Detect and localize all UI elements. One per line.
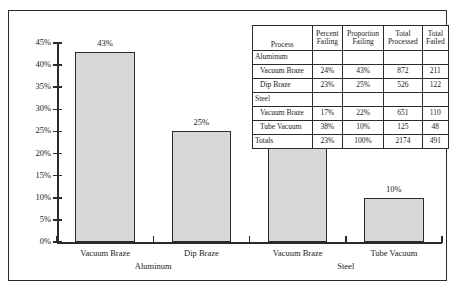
x-axis-category-label: Tube Vacuum bbox=[346, 248, 442, 258]
cell-percent-failing bbox=[312, 93, 342, 107]
y-axis-tick bbox=[53, 197, 62, 199]
table-body: AluminumVacuum Braze24%43%872211Dip Braz… bbox=[253, 51, 449, 149]
bar bbox=[268, 145, 328, 242]
cell-total-processed: 2174 bbox=[384, 135, 423, 149]
y-axis-label: 25% bbox=[11, 126, 51, 135]
x-axis-tick bbox=[56, 236, 58, 243]
cell-percent-failing: 17% bbox=[312, 107, 342, 121]
bar bbox=[364, 198, 424, 242]
y-axis-label: 35% bbox=[11, 82, 51, 91]
cell-total-failed bbox=[422, 93, 448, 107]
bar-value-label: 25% bbox=[153, 118, 249, 127]
cell-percent-failing: 24% bbox=[312, 65, 342, 79]
cell-total-processed bbox=[384, 51, 423, 65]
table-row: Tube Vacuum38%10%12548 bbox=[253, 121, 449, 135]
table-row: Steel bbox=[253, 93, 449, 107]
cell-total-processed: 651 bbox=[384, 107, 423, 121]
x-axis-category-label: Dip Braze bbox=[153, 248, 249, 258]
cell-proportion-failing bbox=[343, 93, 384, 107]
y-axis-label: 15% bbox=[11, 171, 51, 180]
y-axis-tick bbox=[53, 86, 62, 88]
figure-frame: 0%5%10%15%20%25%30%35%40%45%43%Vacuum Br… bbox=[8, 10, 447, 281]
cell-total-processed: 125 bbox=[384, 121, 423, 135]
header-proportion-failing: Proportion Failing bbox=[343, 26, 384, 51]
cell-total-failed bbox=[422, 51, 448, 65]
x-axis-tick bbox=[441, 236, 443, 243]
header-total-processed-line2: Processed bbox=[388, 37, 418, 46]
header-total-failed: Total Failed bbox=[422, 26, 448, 51]
cell-total-processed: 872 bbox=[384, 65, 423, 79]
cell-proportion-failing: 25% bbox=[343, 79, 384, 93]
cell-process: Vacuum Braze bbox=[253, 65, 313, 79]
y-axis-label: 5% bbox=[11, 215, 51, 224]
y-axis-tick bbox=[53, 131, 62, 133]
cell-process: Totals bbox=[253, 135, 313, 149]
table-row: Vacuum Braze17%22%651110 bbox=[253, 107, 449, 121]
y-axis-tick bbox=[53, 153, 62, 155]
header-percent-failing-line2: Failing bbox=[317, 37, 338, 46]
table-header-row: Process Percent Failing Proportion Faili… bbox=[253, 26, 449, 51]
cell-proportion-failing: 43% bbox=[343, 65, 384, 79]
cell-process: Vacuum Braze bbox=[253, 107, 313, 121]
header-total-processed: Total Processed bbox=[384, 26, 423, 51]
header-proportion-failing-line2: Failing bbox=[352, 37, 373, 46]
cell-total-failed: 211 bbox=[422, 65, 448, 79]
table-row: Aluminum bbox=[253, 51, 449, 65]
header-percent-failing: Percent Failing bbox=[312, 26, 342, 51]
cell-process: Dip Braze bbox=[253, 79, 313, 93]
y-axis-tick bbox=[53, 219, 62, 221]
cell-percent-failing: 38% bbox=[312, 121, 342, 135]
cell-total-processed bbox=[384, 93, 423, 107]
cell-total-failed: 491 bbox=[422, 135, 448, 149]
bar bbox=[75, 52, 135, 242]
cell-process: Tube Vacuum bbox=[253, 121, 313, 135]
summary-table: Process Percent Failing Proportion Faili… bbox=[252, 25, 449, 149]
table-row: Totals23%100%2174491 bbox=[253, 135, 449, 149]
y-axis-label: 0% bbox=[11, 237, 51, 246]
y-axis-label: 45% bbox=[11, 38, 51, 47]
chart-figure: 0%5%10%15%20%25%30%35%40%45%43%Vacuum Br… bbox=[0, 0, 455, 296]
y-axis-tick bbox=[53, 175, 62, 177]
x-axis-category-label: Vacuum Braze bbox=[250, 248, 346, 258]
y-axis-label: 40% bbox=[11, 60, 51, 69]
bar-value-label: 43% bbox=[57, 39, 153, 48]
cell-proportion-failing: 100% bbox=[343, 135, 384, 149]
x-axis-tick bbox=[153, 236, 155, 243]
cell-process: Steel bbox=[253, 93, 313, 107]
x-axis-tick bbox=[249, 236, 251, 243]
cell-percent-failing: 23% bbox=[312, 135, 342, 149]
y-axis-tick bbox=[53, 64, 62, 66]
cell-total-failed: 48 bbox=[422, 121, 448, 135]
table-row: Vacuum Braze24%43%872211 bbox=[253, 65, 449, 79]
cell-percent-failing: 23% bbox=[312, 79, 342, 93]
x-axis-category-label: Vacuum Braze bbox=[57, 248, 153, 258]
cell-total-failed: 122 bbox=[422, 79, 448, 93]
header-process: Process bbox=[253, 26, 313, 51]
y-axis-label: 20% bbox=[11, 149, 51, 158]
cell-proportion-failing: 22% bbox=[343, 107, 384, 121]
bar bbox=[172, 131, 232, 242]
y-axis-tick bbox=[53, 109, 62, 111]
y-axis-label: 10% bbox=[11, 193, 51, 202]
cell-proportion-failing: 10% bbox=[343, 121, 384, 135]
y-axis-label: 30% bbox=[11, 104, 51, 113]
x-axis-group-label: Aluminum bbox=[57, 261, 250, 271]
cell-percent-failing bbox=[312, 51, 342, 65]
cell-total-failed: 110 bbox=[422, 107, 448, 121]
x-axis-tick bbox=[345, 236, 347, 243]
x-axis-group-label: Steel bbox=[250, 261, 443, 271]
bar-value-label: 10% bbox=[346, 185, 442, 194]
y-axis-line bbox=[57, 43, 59, 243]
cell-proportion-failing bbox=[343, 51, 384, 65]
cell-total-processed: 526 bbox=[384, 79, 423, 93]
table-row: Dip Braze23%25%526122 bbox=[253, 79, 449, 93]
cell-process: Aluminum bbox=[253, 51, 313, 65]
header-total-failed-line2: Failed bbox=[426, 37, 445, 46]
